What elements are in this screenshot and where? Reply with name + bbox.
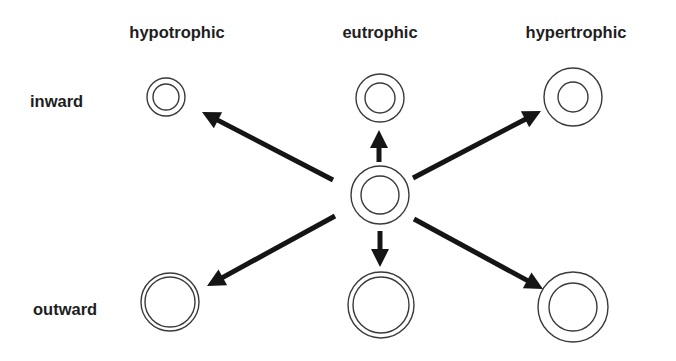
row-labels: inward outward [30,92,97,318]
arrow-to-hypotrophic-inward [202,112,333,180]
arrow-shaft [216,119,333,180]
outer-wall-circle [141,273,199,331]
vessel-hypotrophic-outward [141,273,199,331]
header-hypotrophic: hypotrophic [129,23,224,41]
inner-wall-circle [365,83,395,113]
inner-wall-circle [145,277,195,327]
header-eutrophic: eutrophic [342,23,417,41]
vessel-eutrophic-outward [348,272,414,338]
remodeling-arrows [202,111,543,289]
inner-wall-circle [558,82,588,112]
vessel-hypertrophic-outward [538,272,608,342]
outer-wall-circle [351,166,409,224]
vessel-hypertrophic-inward [544,68,602,126]
vessel-hypotrophic-inward [147,78,185,116]
outer-wall-circle [348,272,414,338]
arrow-shaft [414,219,529,281]
outer-wall-circle [356,74,404,122]
arrowhead-icon [370,130,388,148]
arrow-to-eutrophic-inward [370,130,388,162]
inner-wall-circle [353,277,409,333]
row-label-outward: outward [33,300,97,318]
arrow-shaft [413,118,527,178]
inner-wall-circle [361,176,399,214]
arrow-to-hypertrophic-inward [413,111,541,178]
row-label-inward: inward [30,92,83,110]
outer-wall-circle [544,68,602,126]
arrow-to-hypertrophic-outward [414,219,543,289]
arrow-to-hypotrophic-outward [207,216,335,286]
arrow-to-eutrophic-outward [371,231,389,267]
vessel-rings [141,68,608,342]
arrowhead-icon [371,249,389,267]
inner-wall-circle [549,283,597,331]
header-hypertrophic: hypertrophic [526,23,627,41]
column-headers: hypotrophic eutrophic hypertrophic [129,23,626,41]
vascular-remodeling-diagram: hypotrophic eutrophic hypertrophic inwar… [0,0,676,361]
vessel-center [351,166,409,224]
vessel-eutrophic-inward [356,74,404,122]
inner-wall-circle [153,84,179,110]
arrow-shaft [221,216,335,278]
